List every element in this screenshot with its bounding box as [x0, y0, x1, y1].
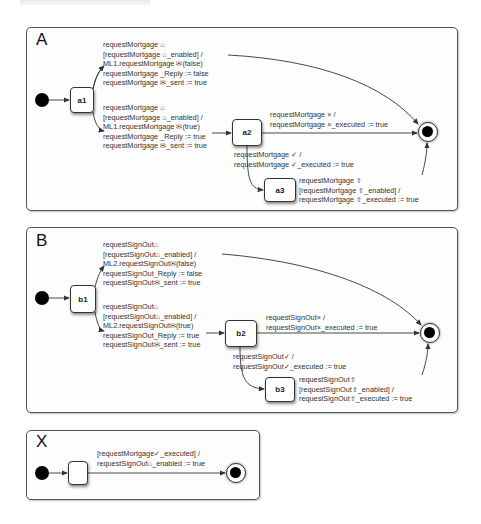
state-b2[interactable]: b2	[225, 320, 257, 347]
transition-label-a1-a2: requestMortgage ⌂ [requestMortgage ⌂_ena…	[103, 103, 207, 151]
transition-label-b2-final: requestSignOut× / requestSignOut×_execut…	[266, 313, 378, 332]
state-a2[interactable]: a2	[232, 119, 262, 146]
final-state-b	[420, 323, 440, 343]
state-x1[interactable]	[68, 461, 88, 485]
transition-label-b3-final: requestSignOut⇧ [requestSignOut⇧_enabled…	[299, 375, 412, 404]
state-b1[interactable]: b1	[70, 285, 96, 313]
state-a3[interactable]: a3	[264, 178, 296, 202]
state-b3[interactable]: b3	[265, 377, 295, 402]
state-a1[interactable]: a1	[70, 87, 94, 113]
final-state-x	[226, 463, 246, 483]
initial-state-a	[35, 93, 49, 107]
transition-label-b2-b3: requestSignOut✓ / requestSignOut✓_execut…	[233, 352, 346, 371]
initial-state-x	[35, 466, 49, 480]
transition-edges	[0, 0, 481, 524]
transition-label-a2-final: requestMortgage × / requestMortgage ×_ex…	[270, 110, 388, 129]
transition-label-a1-final: requestMortgage ⌂ [requestMortgage ⌂_ena…	[103, 40, 209, 88]
transition-label-a3-final: requestMortgage ⇧ [requestMortgage ⇧_ena…	[299, 176, 419, 205]
initial-state-b	[35, 291, 49, 305]
transition-label-x1-final: [requestMortgage✓_executed] / requestSig…	[97, 449, 205, 468]
final-state-a	[418, 122, 438, 142]
transition-label-a2-a3: requestMortgage ✓ / requestMortgage ✓_ex…	[234, 150, 354, 169]
transition-label-b1-b2: requestSignOut⌂ [requestSignOut⌂_enabled…	[103, 302, 200, 350]
transition-label-b1-final: requestSignOut⌂ [requestSignOut⌂_enabled…	[103, 240, 202, 288]
